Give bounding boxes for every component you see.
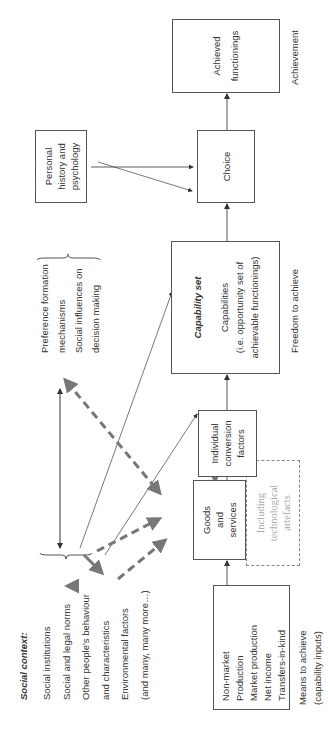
social-context-item: (and many, many more…) xyxy=(138,590,152,700)
personal-line: history and xyxy=(55,143,68,189)
means-item: Market production xyxy=(247,594,261,701)
social-context-title: Social context: xyxy=(17,632,31,700)
tech-line: Including xyxy=(254,493,267,533)
tech-line: artefacts xyxy=(280,495,293,531)
preference-item: mechanisms xyxy=(55,300,69,353)
personal-line: psychology xyxy=(68,143,81,191)
capability-line: Capabilities xyxy=(217,283,232,332)
goods-line: Goods xyxy=(200,506,213,534)
means-item: Net income xyxy=(261,594,275,701)
personal-line: Personal xyxy=(42,148,55,186)
tech-line: technological xyxy=(267,485,280,542)
goods-box: Goods and services xyxy=(193,480,246,560)
preference-item: Social influences on xyxy=(72,269,86,354)
social-context-item: Other people's behaviour xyxy=(79,594,93,700)
capability-line: (i.e. opportunity set of xyxy=(232,262,247,353)
means-label: Means to achieve xyxy=(296,631,310,705)
conversion-line: conversion xyxy=(221,421,234,467)
preference-item: decision making xyxy=(89,285,103,353)
conversion-line: factors xyxy=(234,429,247,458)
achieved-functionings-box: Achieved functionings xyxy=(172,19,280,93)
goods-line: services xyxy=(226,503,239,538)
goods-line: and xyxy=(213,512,226,528)
choice-label: Choice xyxy=(220,152,233,182)
conversion-line: Individual xyxy=(208,423,221,463)
capability-set-box: Capability set Capabilities (i.e. opport… xyxy=(171,241,280,374)
capability-diagram: Social context: Social institutions Soci… xyxy=(0,0,328,729)
social-context-item: Social and legal norms xyxy=(60,604,74,700)
social-context-item: Social institutions xyxy=(40,627,54,700)
achieved-line: Achieved xyxy=(208,36,226,75)
capability-title: Capability set xyxy=(190,277,205,339)
means-item: Transfers-in-kind xyxy=(275,594,289,701)
personal-history-box: Personal history and psychology xyxy=(35,130,87,203)
preference-item: Preference formation xyxy=(38,264,52,353)
means-item: Production xyxy=(233,594,247,701)
means-sublabel: (capability inputs) xyxy=(311,631,325,705)
choice-box: Choice xyxy=(197,130,255,203)
social-context-item: Environmental factors xyxy=(118,608,132,700)
means-box: Non-market Production Market production … xyxy=(213,585,290,710)
achieved-line: functionings xyxy=(226,31,244,82)
capability-line: achievable functionings) xyxy=(247,257,262,359)
social-context-item: and characteristics xyxy=(99,621,113,700)
achievement-label: Achievement xyxy=(288,30,302,85)
means-item: Non-market xyxy=(219,594,233,701)
freedom-label: Freedom to achieve xyxy=(288,269,302,353)
conversion-factors-box: Individual conversion factors xyxy=(198,410,257,477)
